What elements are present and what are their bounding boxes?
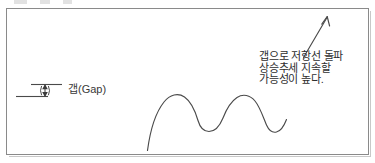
annotation-line-3: 가능성이 높다. xyxy=(259,74,367,86)
top-edge-artifact xyxy=(14,0,27,4)
breakout-annotation-text: 갭으로 저항선 돌파 상승추세 지속할 가능성이 높다. xyxy=(259,51,367,86)
annotation-line-1: 갭으로 저항선 돌파 xyxy=(259,51,367,63)
gap-legend-label: 갭(Gap) xyxy=(68,83,106,96)
top-edge-artifact xyxy=(40,0,50,4)
diagram-canvas: 갭(Gap) 갭으로 저항선 돌파 상승추세 지속할 가능성이 높다. xyxy=(0,0,375,163)
top-edge-artifact xyxy=(63,0,72,4)
frame-shadow-right xyxy=(370,11,371,157)
frame-shadow-bottom xyxy=(9,156,371,157)
